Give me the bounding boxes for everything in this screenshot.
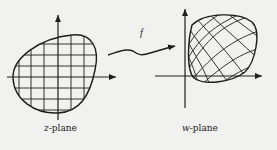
- w-plane-figure: [155, 9, 262, 108]
- mapping-label: f: [140, 27, 143, 38]
- w-plane-suffix: -plane: [190, 123, 218, 133]
- mapping-diagram: [0, 0, 277, 150]
- mapping-arrow: [108, 46, 175, 55]
- z-plane-figure: [0, 0, 120, 130]
- z-plane-grid: [0, 0, 120, 130]
- w-plane-var: w: [182, 123, 190, 133]
- diagram-canvas: f z-plane w-plane: [0, 0, 277, 150]
- z-plane-suffix: -plane: [49, 123, 77, 133]
- w-plane-caption: w-plane: [182, 123, 218, 133]
- z-plane-caption: z-plane: [44, 123, 77, 133]
